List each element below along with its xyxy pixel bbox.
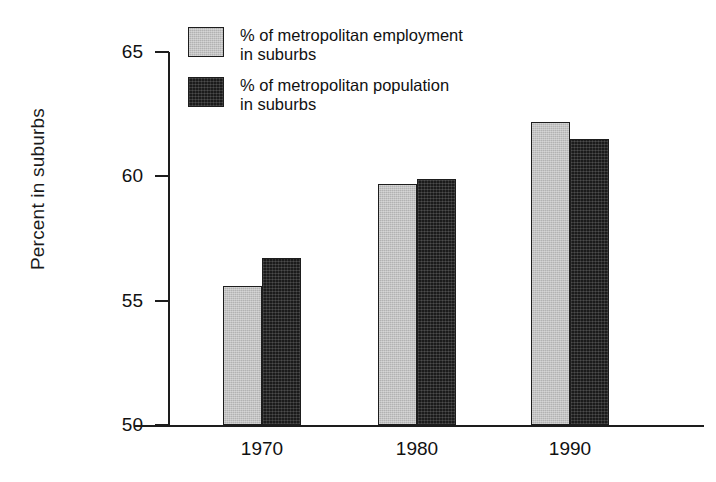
bar-1980-employment [378,184,417,425]
bar-1970-population [262,258,301,425]
y-tick-mark [155,51,169,53]
bar-chart: Percent in suburbs 65605550 197019801990… [0,0,716,482]
legend-item-label: % of metropolitan employment in suburbs [240,26,463,65]
legend-item-employment: % of metropolitan employment in suburbs [188,26,463,65]
y-tick-mark [155,300,169,302]
legend-item-label: % of metropolitan population in suburbs [240,76,449,115]
bar-1970-employment [223,286,262,425]
bar-1980-population [417,179,456,425]
chart-legend: % of metropolitan employment in suburbs%… [188,26,463,126]
bar-1990-population [570,139,609,425]
x-tick-label-1990: 1990 [510,438,630,460]
y-tick-label: 65 [97,42,143,61]
x-tick-label-1970: 1970 [202,438,322,460]
dark-swatch [188,77,224,107]
bar-1990-employment [531,122,570,425]
y-tick-label: 55 [97,291,143,310]
y-tick-label: 60 [97,166,143,185]
light-gray-swatch [188,27,224,57]
y-tick-mark [155,175,169,177]
y-axis-line [168,52,170,426]
legend-item-population: % of metropolitan population in suburbs [188,76,463,115]
x-tick-label-1980: 1980 [357,438,477,460]
y-axis-title: Percent in suburbs [27,89,49,289]
x-axis-line [134,425,704,427]
